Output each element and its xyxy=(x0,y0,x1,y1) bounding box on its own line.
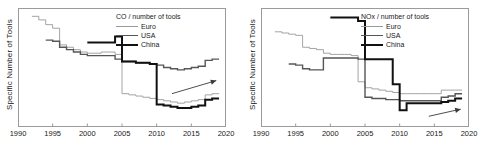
x-axis-labels-nox: 1990199520002005201020152020 xyxy=(261,129,469,143)
figure-two-panel-step-charts: Specific Number of Tools 199019952000200… xyxy=(0,0,486,160)
legend-nox: NOx / number of tools EuroUSAChina xyxy=(361,12,429,49)
x-tick-label-2020: 2020 xyxy=(218,129,235,138)
chart-panel-nox: Specific Number of Tools 199019952000200… xyxy=(243,0,486,160)
x-tick-label-2010: 2010 xyxy=(391,129,408,138)
legend-label-china: China xyxy=(386,40,404,49)
x-tick-label-2000: 2000 xyxy=(322,129,339,138)
y-axis-label-co: Specific Number of Tools xyxy=(2,0,16,130)
trend-arrow-annotation xyxy=(172,80,216,94)
x-tick-label-2000: 2000 xyxy=(79,129,96,138)
legend-swatch-euro-icon xyxy=(116,26,138,27)
x-tick-label-1990: 1990 xyxy=(10,129,27,138)
legend-entry-usa: USA xyxy=(116,31,181,40)
series-line-usa xyxy=(289,58,462,101)
legend-label-china: China xyxy=(141,40,159,49)
x-tick-label-1995: 1995 xyxy=(287,129,304,138)
legend-entry-usa: USA xyxy=(361,31,429,40)
legend-swatch-usa-icon xyxy=(116,35,138,36)
legend-title-co: CO / number of tools xyxy=(116,12,181,21)
x-tick-label-2005: 2005 xyxy=(357,129,374,138)
legend-title-nox: NOx / number of tools xyxy=(361,12,429,21)
legend-swatch-china-icon xyxy=(116,44,138,46)
legend-entry-euro: Euro xyxy=(361,22,429,31)
x-tick-label-2015: 2015 xyxy=(183,129,200,138)
trend-arrow-annotation xyxy=(429,108,461,116)
x-tick-label-1990: 1990 xyxy=(253,129,270,138)
chart-panel-co: Specific Number of Tools 199019952000200… xyxy=(0,0,243,160)
x-tick-label-2020: 2020 xyxy=(461,129,478,138)
legend-entry-euro: Euro xyxy=(116,22,181,31)
legend-entry-china: China xyxy=(116,40,181,49)
x-tick-label-2015: 2015 xyxy=(426,129,443,138)
x-tick-label-1995: 1995 xyxy=(44,129,61,138)
x-tick-label-2010: 2010 xyxy=(148,129,165,138)
legend-co: CO / number of tools EuroUSAChina xyxy=(116,12,181,49)
legend-entry-china: China xyxy=(361,40,429,49)
x-axis-labels-co: 1990199520002005201020152020 xyxy=(18,129,226,143)
legend-swatch-euro-icon xyxy=(361,26,383,27)
legend-swatch-china-icon xyxy=(361,44,383,46)
y-axis-label-nox: Specific Number of Tools xyxy=(245,0,259,130)
legend-swatch-usa-icon xyxy=(361,35,383,36)
x-tick-label-2005: 2005 xyxy=(114,129,131,138)
